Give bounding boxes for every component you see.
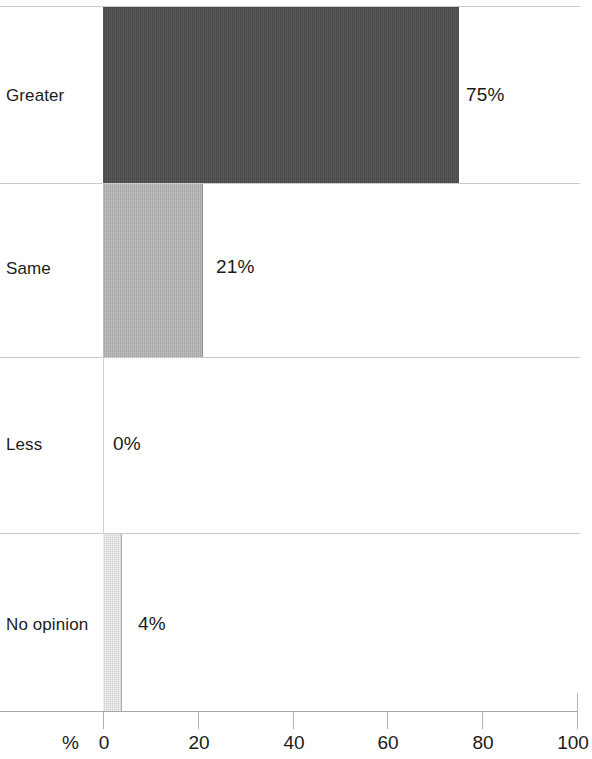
x-tick-40 bbox=[293, 712, 294, 729]
gridline-greater-same bbox=[0, 183, 580, 184]
value-label-same: 21% bbox=[216, 256, 255, 278]
bar-no-opinion[interactable] bbox=[103, 534, 122, 711]
gridline-same-less bbox=[0, 357, 580, 358]
value-label-less: 0% bbox=[113, 433, 141, 455]
horizontal-bar-chart: Greater 75% Same 21% Less 0% No opinion … bbox=[0, 0, 592, 759]
category-label-greater: Greater bbox=[6, 86, 64, 106]
x-axis-right-edge bbox=[577, 693, 578, 712]
x-tick-100 bbox=[577, 712, 578, 729]
category-label-same: Same bbox=[6, 259, 51, 279]
x-axis: % 0 20 40 60 80 100 bbox=[0, 712, 592, 759]
gridline-less-noopinion bbox=[0, 533, 580, 534]
x-tick-label-0: 0 bbox=[99, 732, 110, 754]
x-tick-label-60: 60 bbox=[377, 732, 398, 754]
x-tick-60 bbox=[387, 712, 388, 729]
x-tick-label-20: 20 bbox=[188, 732, 209, 754]
value-label-greater: 75% bbox=[466, 84, 505, 106]
x-axis-unit-label: % bbox=[62, 732, 79, 754]
category-label-no-opinion: No opinion bbox=[6, 615, 88, 635]
x-tick-label-80: 80 bbox=[472, 732, 493, 754]
plot-area: Greater 75% Same 21% Less 0% No opinion … bbox=[0, 0, 592, 712]
category-label-less: Less bbox=[6, 435, 42, 455]
x-tick-label-40: 40 bbox=[283, 732, 304, 754]
bar-same[interactable] bbox=[103, 184, 203, 357]
x-tick-label-100: 100 bbox=[557, 732, 589, 754]
value-label-no-opinion: 4% bbox=[138, 613, 166, 635]
x-tick-80 bbox=[482, 712, 483, 729]
x-tick-20 bbox=[198, 712, 199, 729]
bar-greater[interactable] bbox=[103, 7, 459, 183]
x-tick-0 bbox=[103, 712, 104, 729]
